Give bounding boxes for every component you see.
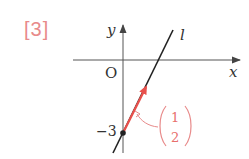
x-axis-label: x	[229, 63, 238, 81]
right-paren	[185, 106, 191, 146]
y-axis-label: y	[106, 21, 116, 39]
line-l-label: l	[180, 26, 185, 44]
coordinate-diagram: y x O l −3 1 2	[0, 0, 249, 159]
y-intercept-label: −3	[96, 123, 117, 139]
vector-top-component: 1	[171, 110, 179, 125]
vector-pointer-curve	[137, 114, 158, 127]
y-intercept-point	[120, 130, 126, 136]
left-paren	[160, 106, 166, 146]
direction-vector-arrow	[124, 87, 146, 131]
vector-bottom-component: 2	[171, 130, 179, 145]
origin-label: O	[105, 64, 117, 82]
